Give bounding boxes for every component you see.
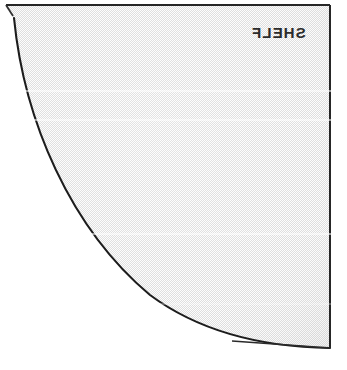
scan-sheet: SHELF bbox=[0, 0, 347, 370]
shelf-figure bbox=[0, 0, 347, 370]
shelf-label: SHELF bbox=[251, 25, 306, 40]
shelf-body bbox=[0, 0, 347, 370]
shelf-scan-blotch bbox=[0, 0, 347, 370]
